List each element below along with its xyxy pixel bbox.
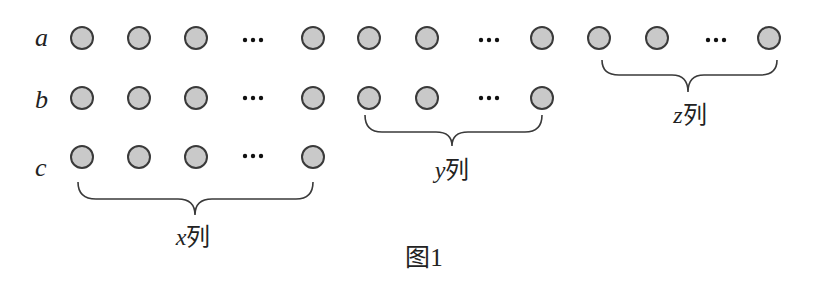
x-group-label: x列 <box>175 224 211 250</box>
bead-icon <box>185 146 207 168</box>
bead-icon <box>302 87 324 109</box>
row-c-beads <box>71 146 324 168</box>
bead-icon <box>128 146 150 168</box>
bead-icon <box>416 87 438 109</box>
y-group-label: y列 <box>433 157 470 183</box>
bead-icon <box>531 27 553 49</box>
bead-icon <box>358 27 380 49</box>
z-group-brace-icon <box>602 60 777 92</box>
bead-column-diagram: a b c <box>0 0 824 291</box>
bead-icon <box>358 87 380 109</box>
row-label-a: a <box>35 23 48 52</box>
ellipsis-icon <box>479 96 499 100</box>
bead-icon <box>185 87 207 109</box>
bead-icon <box>71 27 93 49</box>
row-a-beads <box>71 27 780 49</box>
ellipsis-icon <box>243 154 263 158</box>
ellipsis-icon <box>706 38 726 42</box>
ellipsis-icon <box>243 96 263 100</box>
row-label-b: b <box>35 85 48 114</box>
bead-icon <box>128 27 150 49</box>
bead-icon <box>531 87 553 109</box>
ellipsis-icon <box>243 38 263 42</box>
bead-icon <box>302 146 324 168</box>
bead-icon <box>185 27 207 49</box>
x-group-brace-icon <box>78 182 313 215</box>
bead-icon <box>128 87 150 109</box>
z-group-label: z列 <box>672 102 706 128</box>
bead-icon <box>646 27 668 49</box>
bead-icon <box>758 27 780 49</box>
bead-icon <box>71 87 93 109</box>
bead-icon <box>71 146 93 168</box>
bead-icon <box>588 27 610 49</box>
row-label-c: c <box>35 153 47 182</box>
figure-caption: 图1 <box>405 244 443 271</box>
y-group-brace-icon <box>365 115 542 146</box>
bead-icon <box>416 27 438 49</box>
bead-icon <box>302 27 324 49</box>
row-b-beads <box>71 87 553 109</box>
ellipsis-icon <box>479 38 499 42</box>
